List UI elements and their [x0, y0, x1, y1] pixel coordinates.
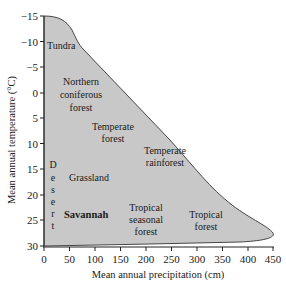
- y-tick-label: 10: [27, 138, 39, 150]
- y-tick-label: −10: [21, 36, 39, 48]
- svg-text:Northern: Northern: [63, 76, 99, 87]
- y-ticks: [40, 16, 44, 246]
- region-label-tundra: Tundra: [47, 40, 76, 51]
- y-tick-label: 15: [27, 163, 39, 175]
- x-tick-labels: 0 50 100 150 200 250 300 350 400 450: [41, 253, 282, 265]
- svg-text:Tropical: Tropical: [129, 202, 163, 213]
- y-axis-title: Mean annual temperature (°C): [6, 75, 18, 204]
- svg-text:coniferous: coniferous: [60, 89, 102, 100]
- y-tick-label: −5: [26, 61, 38, 73]
- y-tick-label: 25: [27, 214, 39, 226]
- region-label-savannah: Savannah: [64, 209, 109, 220]
- x-tick-label: 450: [265, 253, 282, 265]
- x-tick-label: 50: [64, 253, 76, 265]
- x-tick-label: 0: [41, 253, 47, 265]
- svg-text:forest: forest: [102, 133, 125, 144]
- x-tick-label: 100: [87, 253, 104, 265]
- x-ticks: [44, 247, 273, 251]
- biome-chart: −15 −10 −5 0 5 10 15 20 25 30 0 50 100 1…: [0, 0, 286, 288]
- svg-text:t: t: [52, 220, 55, 231]
- y-tick-label: 0: [33, 87, 39, 99]
- y-tick-label: 20: [27, 189, 39, 201]
- svg-text:e: e: [51, 172, 56, 183]
- x-tick-label: 250: [163, 253, 180, 265]
- svg-text:rainforest: rainforest: [146, 157, 185, 168]
- y-tick-label: 5: [33, 112, 39, 124]
- svg-text:forest: forest: [70, 102, 93, 113]
- svg-text:Tropical: Tropical: [189, 209, 223, 220]
- x-tick-label: 300: [189, 253, 206, 265]
- x-axis-title: Mean annual precipitation (cm): [92, 269, 225, 281]
- svg-text:forest: forest: [195, 221, 218, 232]
- svg-text:seasonal: seasonal: [129, 214, 163, 225]
- svg-text:e: e: [51, 196, 56, 207]
- svg-text:s: s: [51, 184, 55, 195]
- y-tick-labels: −15 −10 −5 0 5 10 15 20 25 30: [21, 10, 39, 252]
- svg-text:Temperate: Temperate: [144, 145, 187, 156]
- region-label-temperate-rainforest: Temperate rainforest: [144, 145, 187, 168]
- x-tick-label: 200: [138, 253, 155, 265]
- x-tick-label: 400: [240, 253, 257, 265]
- y-tick-label: 30: [27, 240, 39, 252]
- svg-text:forest: forest: [135, 226, 158, 237]
- y-tick-label: −15: [21, 10, 39, 22]
- x-tick-label: 350: [214, 253, 231, 265]
- x-tick-label: 150: [112, 253, 129, 265]
- svg-text:D: D: [49, 159, 56, 170]
- region-label-grassland: Grassland: [69, 172, 109, 183]
- svg-text:Temperate: Temperate: [92, 121, 135, 132]
